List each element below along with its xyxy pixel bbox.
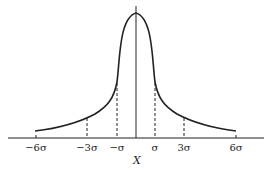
- x-axis-label: X: [133, 154, 141, 167]
- tick-label-minus-3sigma: −3σ: [76, 142, 98, 153]
- tick-label-6sigma: 6σ: [229, 142, 242, 153]
- tick-label-minus-sigma: −σ: [109, 142, 124, 153]
- tick-label-sigma: σ: [152, 142, 159, 153]
- tick-label-3sigma: 3σ: [177, 142, 190, 153]
- tick-label-minus-6sigma: −6σ: [25, 142, 47, 153]
